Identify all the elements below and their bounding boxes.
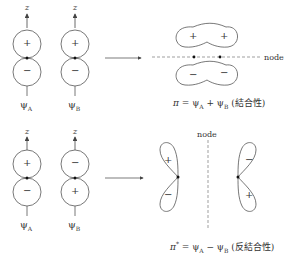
psi-a-label: ψA [20, 220, 32, 234]
node-label: node [264, 53, 284, 63]
node-label: node [197, 130, 217, 140]
sign-label: + [220, 31, 228, 41]
z-axis-label: z [25, 3, 29, 13]
sign-label: + [164, 155, 172, 165]
sign-label: − [164, 190, 172, 200]
sign-label: + [245, 190, 253, 200]
psi-b-label: ψB [68, 220, 80, 234]
sign-label: + [23, 38, 31, 48]
bonding-orbital [152, 23, 260, 85]
z-axis-label: z [73, 3, 77, 13]
sign-label: − [71, 66, 79, 76]
antibonding-orbital [160, 140, 256, 228]
antibonding-formula: π* = ψA − ψB (反結合性) [170, 239, 274, 256]
bonding-formula: π = ψA + ψB (結合性) [173, 98, 265, 112]
sign-label: − [23, 186, 31, 196]
sign-label: − [220, 68, 228, 78]
z-axis-label: z [25, 127, 29, 137]
bottom-orbital-b [61, 137, 89, 216]
sign-label: − [71, 158, 79, 168]
sign-label: − [189, 70, 197, 80]
diagram-canvas [0, 0, 289, 256]
bottom-orbital-a [13, 137, 41, 216]
sign-label: − [23, 66, 31, 76]
psi-b-label: ψB [68, 100, 80, 114]
z-axis-label: z [73, 127, 77, 137]
top-orbital-b [61, 14, 89, 96]
sign-label: + [23, 158, 31, 168]
sign-label: − [245, 155, 253, 165]
nucleus-dot [26, 57, 29, 60]
sign-label: + [71, 186, 79, 196]
top-orbital-a [13, 14, 41, 96]
psi-a-label: ψA [20, 100, 32, 114]
sign-label: + [71, 38, 79, 48]
sign-label: + [189, 31, 197, 41]
